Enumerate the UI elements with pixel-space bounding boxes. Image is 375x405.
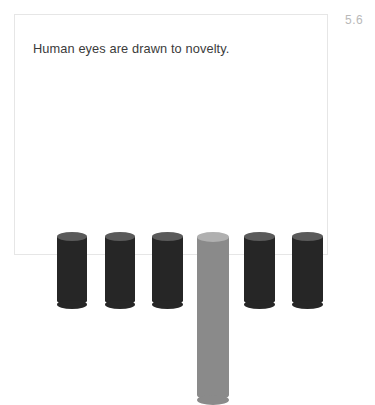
cylinder-bottom-cap <box>197 395 229 405</box>
cylinder-bottom-cap <box>57 300 87 309</box>
cylinder-bottom-cap <box>152 300 183 309</box>
cylinder-body <box>105 237 135 305</box>
slide-card: Human eyes are drawn to novelty. <box>14 14 328 255</box>
cylinder-body <box>57 237 87 305</box>
cylinder-bottom-cap <box>292 300 323 309</box>
bar-cylinder <box>57 232 87 305</box>
bar-cylinder <box>292 232 323 305</box>
bar-cylinder <box>244 232 275 305</box>
cylinder-bottom-cap <box>244 300 275 309</box>
cylinder-top-cap <box>152 232 183 241</box>
bar-chart-plot <box>15 15 327 254</box>
cylinder-body <box>152 237 183 305</box>
cylinder-body <box>292 237 323 305</box>
bar-cylinder <box>152 232 183 305</box>
cylinder-bottom-cap <box>105 300 135 309</box>
cylinder-top-cap <box>105 232 135 241</box>
bar-cylinder <box>105 232 135 305</box>
cylinder-body <box>244 237 275 305</box>
bar-cylinder-highlighted <box>197 232 229 400</box>
cylinder-top-cap <box>57 232 87 241</box>
cylinder-top-cap <box>244 232 275 241</box>
cylinder-body <box>197 237 229 400</box>
cylinder-top-cap <box>197 232 229 242</box>
figure-number-label: 5.6 <box>345 14 363 26</box>
cylinder-top-cap <box>292 232 323 241</box>
